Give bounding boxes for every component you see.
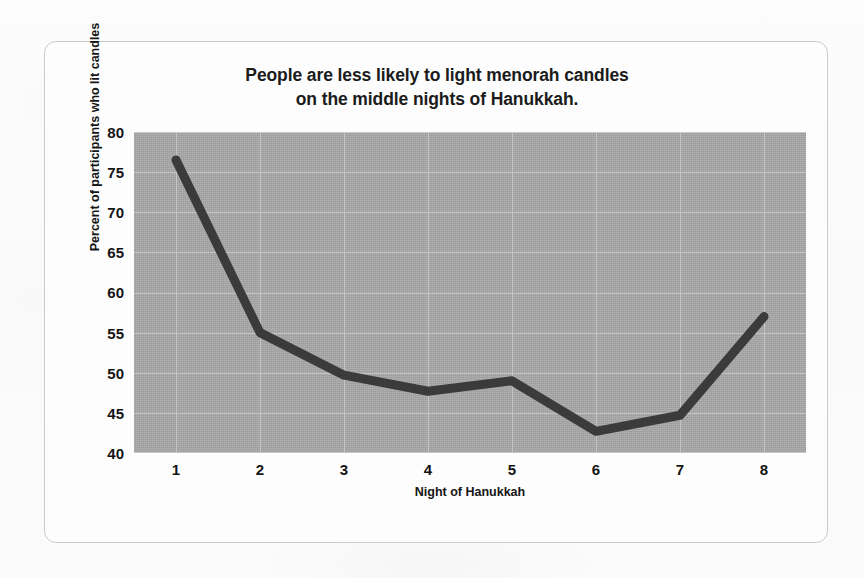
x-axis-tick-8: 8	[749, 462, 779, 477]
y-axis-tick-40: 40	[84, 446, 124, 461]
x-axis-tick-5: 5	[497, 462, 527, 477]
chart-title-line-2: on the middle nights of Hanukkah.	[105, 87, 769, 111]
y-axis-tick-45: 45	[84, 406, 124, 421]
chart-title-line-1: People are less likely to light menorah …	[105, 63, 769, 87]
x-axis-tick-7: 7	[665, 462, 695, 477]
plot-area	[134, 132, 806, 453]
x-axis-title: Night of Hanukkah	[134, 485, 806, 499]
y-axis-title: Percent of participants who lit candles	[88, 0, 102, 292]
y-axis-tick-55: 55	[84, 326, 124, 341]
x-axis-tick-1: 1	[161, 462, 191, 477]
y-axis-tick-50: 50	[84, 366, 124, 381]
series-line-percent-lit	[134, 132, 806, 453]
x-axis-tick-4: 4	[413, 462, 443, 477]
chart-title: People are less likely to light menorah …	[105, 63, 769, 111]
x-axis-tick-2: 2	[245, 462, 275, 477]
chart-card: People are less likely to light menorah …	[44, 41, 828, 543]
x-axis-tick-3: 3	[329, 462, 359, 477]
x-axis-tick-6: 6	[581, 462, 611, 477]
